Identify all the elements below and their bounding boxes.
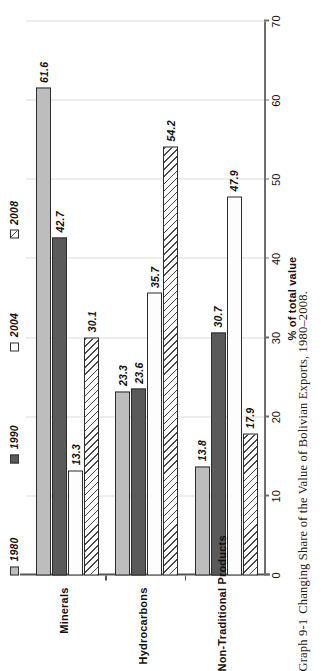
bar-row: 23.3	[115, 21, 130, 575]
category-label-non-traditional-products: Non-Traditional Products	[216, 587, 228, 671]
bar-row: 17.9	[243, 21, 258, 575]
figure-caption-number: Graph 9-1	[296, 618, 310, 671]
bar-row: 47.9	[227, 21, 242, 575]
bar-chart: 1980 1990 2004 2008 61.642.713.330.12	[0, 0, 286, 671]
value-tick-10	[264, 494, 269, 496]
value-axis-line	[264, 21, 266, 575]
bar-row: 30.1	[84, 21, 99, 575]
value-tick-70	[264, 20, 269, 22]
bar-row: 42.7	[52, 21, 67, 575]
bar-2008-non-traditional-products[interactable]	[243, 433, 258, 575]
category-tick	[105, 575, 107, 580]
legend-swatch-1990	[10, 454, 19, 463]
bar-2004-hydrocarbons[interactable]	[147, 292, 162, 575]
value-tick-label-10: 10	[270, 490, 282, 502]
bar-value-label: 35.7	[149, 266, 161, 287]
legend-item-1980: 1980	[8, 537, 20, 575]
value-tick-label-70: 70	[270, 15, 282, 27]
bar-1980-hydrocarbons[interactable]	[115, 391, 130, 575]
value-tick-label-0: 0	[270, 572, 282, 578]
bar-2004-minerals[interactable]	[68, 470, 83, 575]
legend-item-2004: 2004	[8, 312, 20, 350]
category-tick	[185, 575, 187, 580]
legend-swatch-2004	[10, 342, 19, 351]
bar-value-label: 17.9	[244, 407, 256, 428]
legend-item-1990: 1990	[8, 425, 20, 463]
bar-row: 30.7	[211, 21, 226, 575]
bar-row: 35.7	[147, 21, 162, 575]
bar-value-label: 30.7	[212, 306, 224, 327]
bar-value-label: 47.9	[228, 170, 240, 191]
value-tick-40	[264, 257, 269, 259]
bar-value-label: 13.8	[196, 440, 208, 461]
category-label-minerals: Minerals	[58, 587, 70, 671]
value-tick-label-50: 50	[270, 173, 282, 185]
figure-caption: Graph 9-1Changing Share of the Value of …	[296, 11, 311, 671]
bar-2008-minerals[interactable]	[84, 337, 99, 575]
figure-page: 1980 1990 2004 2008 61.642.713.330.12	[0, 0, 330, 671]
value-tick-20	[264, 415, 269, 417]
value-tick-label-30: 30	[270, 331, 282, 343]
legend-label-2004: 2004	[8, 312, 20, 336]
bar-row: 61.6	[36, 21, 51, 575]
category-label-hydrocarbons: Hydrocarbons	[137, 587, 149, 671]
bar-row: 23.6	[131, 21, 146, 575]
bar-value-label: 13.3	[70, 444, 82, 465]
legend-item-2008: 2008	[8, 200, 20, 238]
bar-1990-minerals[interactable]	[52, 237, 67, 575]
figure-caption-text: Changing Share of the Value of Bolivian …	[296, 291, 310, 614]
legend-label-2008: 2008	[8, 200, 20, 224]
bar-value-label: 42.7	[54, 211, 66, 232]
bar-1990-hydrocarbons[interactable]	[131, 388, 146, 575]
bar-value-label: 30.1	[86, 311, 98, 332]
bar-value-label: 54.2	[165, 120, 177, 141]
bar-value-label: 23.6	[133, 362, 145, 383]
bar-2008-hydrocarbons[interactable]	[163, 146, 178, 575]
legend-label-1980: 1980	[8, 537, 20, 561]
value-tick-50	[264, 178, 269, 180]
rotated-figure-canvas: 1980 1990 2004 2008 61.642.713.330.12	[0, 0, 330, 671]
bar-row: 13.8	[195, 21, 210, 575]
value-tick-0	[264, 574, 269, 576]
bar-group-minerals: 61.642.713.330.1	[26, 21, 105, 575]
bar-2004-non-traditional-products[interactable]	[227, 196, 242, 575]
value-tick-label-20: 20	[270, 411, 282, 423]
value-tick-label-40: 40	[270, 252, 282, 264]
bar-group-hydrocarbons: 23.323.635.754.2	[105, 21, 184, 575]
legend-label-1990: 1990	[8, 425, 20, 449]
chart-legend: 1980 1990 2004 2008	[6, 15, 22, 575]
plot-area: 61.642.713.330.123.323.635.754.213.830.7…	[26, 21, 264, 575]
bar-value-label: 61.6	[38, 61, 50, 82]
value-tick-label-60: 60	[270, 94, 282, 106]
bar-1980-minerals[interactable]	[36, 87, 51, 575]
bar-value-label: 23.3	[117, 364, 129, 385]
bar-group-non-traditional-products: 13.830.747.917.9	[185, 21, 264, 575]
bar-row: 54.2	[163, 21, 178, 575]
bar-1980-non-traditional-products[interactable]	[195, 466, 210, 575]
value-tick-30	[264, 336, 269, 338]
value-tick-60	[264, 99, 269, 101]
legend-swatch-2008	[10, 229, 19, 238]
bar-row: 13.3	[68, 21, 83, 575]
legend-swatch-1980	[10, 566, 19, 575]
